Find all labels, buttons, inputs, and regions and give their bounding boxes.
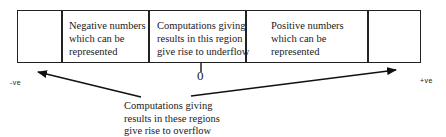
arrows-and-ticks <box>0 0 446 137</box>
zero-label: 0 <box>197 68 204 84</box>
positive-axis-label: +ve <box>420 77 433 84</box>
overflow-caption: Computations giving results in these reg… <box>124 100 220 137</box>
negative-axis-label: -ve <box>10 79 21 86</box>
arrow-right-overflow <box>191 70 396 96</box>
arrow-left-overflow <box>38 72 141 97</box>
